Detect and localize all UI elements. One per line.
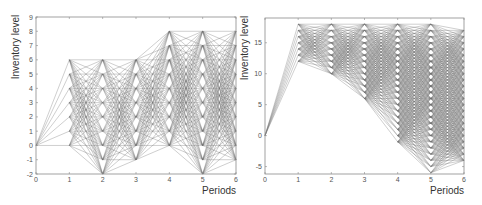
y-tick-label: 6 [29,56,33,63]
transition-line [431,24,464,55]
x-tick-label: 6 [234,176,238,183]
transition-line [265,55,298,135]
y-tick-label: 15 [254,39,262,46]
transition-line [69,103,102,174]
transition-line [169,131,202,174]
transition-line [136,46,169,60]
x-tick-label: 6 [462,176,466,183]
y-tick-label: 0 [258,132,262,139]
transition-line [298,43,331,74]
transition-line [103,160,136,174]
transition-line [69,60,102,160]
y-tick-label: 9 [29,14,33,21]
chart-figure: 0123456-2-10123456789 Periods Inventory … [0,0,482,205]
transition-line [265,37,298,136]
y-tick-label: -5 [256,163,262,170]
transition-line [136,145,169,159]
x-tick-label: 1 [296,176,300,183]
y-axis-label: Inventory level [10,15,21,79]
transition-line [36,117,69,146]
y-tick-label: 0 [29,142,33,149]
x-tick-label: 5 [201,176,205,183]
transition-line [36,103,69,146]
transition-line [298,24,331,67]
x-axis-label: Periods [430,185,464,196]
transition-line [36,131,69,145]
x-tick-label: 2 [101,176,105,183]
x-tick-label: 4 [167,176,171,183]
x-tick-label: 1 [67,176,71,183]
transition-line [398,142,431,173]
x-axis-label: Periods [202,185,236,196]
y-tick-label: 10 [254,70,262,77]
y-tick-label: -2 [27,171,33,178]
transition-line [69,74,102,174]
x-tick-label: 3 [134,176,138,183]
y-tick-label: 5 [258,101,262,108]
transition-line [431,24,464,43]
y-tick-label: 2 [29,113,33,120]
transition-line [69,131,102,174]
x-tick-label: 0 [34,176,38,183]
transition-line [265,30,298,135]
transition-line [203,160,236,174]
transition-line [169,60,202,160]
y-axis-label: Inventory level [239,16,250,80]
x-tick-label: 5 [429,176,433,183]
x-tick-label: 0 [263,176,267,183]
y-tick-label: 8 [29,28,33,35]
transition-line [265,43,298,136]
right-inventory-plot: 0123456-5051015 Periods Inventory level [239,16,466,196]
left-inventory-plot: 0123456-2-10123456789 Periods Inventory … [10,14,238,197]
transition-lines [265,24,464,173]
transition-line [265,24,298,135]
transition-line [298,30,331,73]
transition-line [36,60,69,146]
transition-lines [36,31,236,174]
transition-line [331,68,364,99]
x-tick-label: 3 [363,176,367,183]
transition-line [136,31,169,60]
transition-line [36,74,69,145]
y-tick-label: 5 [29,71,33,78]
transition-line [69,145,102,174]
y-tick-label: 7 [29,42,33,49]
transition-line [36,88,69,145]
x-tick-label: 2 [329,176,333,183]
transition-line [265,49,298,136]
transition-line [169,145,202,174]
y-tick-label: 3 [29,99,33,106]
transition-line [298,55,331,74]
y-tick-label: -1 [27,156,33,163]
y-tick-label: 1 [29,128,33,135]
transition-line [169,103,202,174]
transition-line [265,61,298,135]
x-tick-label: 4 [396,176,400,183]
y-tick-label: 4 [29,85,33,92]
